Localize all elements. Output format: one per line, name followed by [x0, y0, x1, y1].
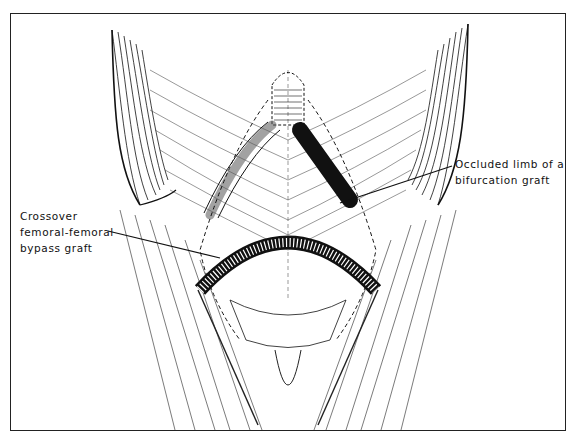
- label-crossover-graft: Crossover femoral-femoral bypass graft: [20, 208, 114, 256]
- label-line: femoral-femoral: [20, 224, 114, 240]
- left-flank-muscle: [112, 30, 176, 205]
- label-line: bifurcation graft: [455, 172, 564, 188]
- label-line: Occluded limb of a: [455, 156, 564, 172]
- leader-crossover: [108, 231, 220, 258]
- label-line: bypass graft: [20, 240, 114, 256]
- label-line: Crossover: [20, 208, 114, 224]
- abdominal-wall-fibers: [150, 70, 426, 300]
- label-occluded-limb: Occluded limb of a bifurcation graft: [455, 156, 564, 188]
